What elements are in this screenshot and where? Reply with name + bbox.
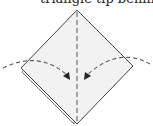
paper-diamond [21,10,133,124]
origami-diagram [0,0,153,126]
